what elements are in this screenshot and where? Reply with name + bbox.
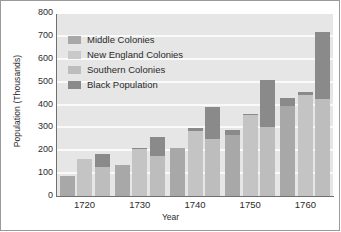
legend-label: Black Population	[87, 80, 158, 90]
y-tick-label: 200	[26, 145, 53, 154]
legend-swatch-icon	[68, 51, 81, 59]
bar-southern-colonies-1740	[205, 107, 220, 197]
bar-segment-black-population	[280, 98, 295, 106]
bar-southern-colonies-1720	[95, 154, 110, 197]
x-tick-label: 1740	[173, 199, 217, 210]
bar-new-england-colonies-1760	[298, 92, 313, 197]
x-tick-label: 1730	[118, 199, 162, 210]
y-tick-label: 700	[26, 31, 53, 40]
bar-segment-black-population	[132, 148, 147, 149]
bar-segment-black-population	[188, 128, 203, 130]
legend-swatch-icon	[68, 66, 81, 74]
bar-segment-base	[95, 167, 110, 197]
y-axis-tick-labels: 8007006005004003002001000	[26, 12, 53, 198]
bar-new-england-colonies-1750	[243, 114, 258, 197]
bar-segment-base	[132, 149, 147, 197]
bar-middle-colonies-1730	[115, 165, 130, 197]
x-axis-tick-labels: 17201730174017501760	[57, 199, 333, 213]
bar-segment-black-population	[95, 154, 110, 167]
bar-segment-base	[315, 99, 330, 197]
bar-segment-base	[243, 115, 258, 197]
bar-segment-base	[298, 95, 313, 197]
bar-segment-base	[280, 106, 295, 197]
y-tick-label: 800	[26, 8, 53, 17]
x-tick-label: 1720	[63, 199, 107, 210]
chart-legend: Middle ColoniesNew England ColoniesSouth…	[68, 33, 183, 93]
bar-segment-base	[77, 159, 92, 197]
bar-segment-black-population	[260, 80, 275, 128]
legend-label: Middle Colonies	[87, 35, 155, 45]
bar-middle-colonies-1740	[170, 148, 185, 197]
y-axis-line	[56, 14, 57, 197]
chart-figure: Population (Thousands) 80070060050040030…	[0, 0, 341, 232]
y-tick-label: 100	[26, 168, 53, 177]
bar-segment-base	[150, 156, 165, 197]
bar-segment-black-population	[150, 137, 165, 156]
bar-southern-colonies-1730	[150, 137, 165, 197]
bar-middle-colonies-1760	[280, 98, 295, 197]
y-tick-label: 600	[26, 54, 53, 63]
bar-segment-black-population	[315, 32, 330, 99]
legend-label: New England Colonies	[87, 50, 183, 60]
x-axis-line	[56, 196, 334, 197]
bar-segment-base	[170, 148, 185, 197]
x-axis-title: Year	[0, 212, 341, 222]
x-tick-label: 1750	[228, 199, 272, 210]
bar-segment-base	[115, 165, 130, 197]
bar-segment-base	[260, 127, 275, 197]
y-tick-label: 300	[26, 122, 53, 131]
y-tick-label: 400	[26, 100, 53, 109]
x-tick-label: 1760	[283, 199, 327, 210]
legend-item-southern-colonies: Southern Colonies	[68, 63, 183, 76]
bar-segment-base	[205, 139, 220, 197]
bar-segment-base	[60, 176, 75, 197]
legend-swatch-icon	[68, 81, 81, 89]
bar-new-england-colonies-1740	[188, 128, 203, 197]
bar-segment-base	[188, 131, 203, 197]
bar-segment-black-population	[225, 130, 240, 136]
bar-new-england-colonies-1730	[132, 148, 147, 197]
bar-middle-colonies-1720	[60, 176, 75, 197]
bar-segment-black-population	[298, 92, 313, 95]
y-tick-label: 0	[26, 191, 53, 200]
y-tick-label: 500	[26, 77, 53, 86]
bar-middle-colonies-1750	[225, 130, 240, 197]
legend-item-middle-colonies: Middle Colonies	[68, 33, 183, 46]
legend-label: Southern Colonies	[87, 65, 165, 75]
y-axis-title: Population (Thousands)	[12, 26, 22, 176]
legend-item-black-population: Black Population	[68, 78, 183, 91]
bar-segment-base	[225, 135, 240, 197]
bar-new-england-colonies-1720	[77, 159, 92, 197]
bar-southern-colonies-1760	[315, 32, 330, 197]
legend-item-new-england-colonies: New England Colonies	[68, 48, 183, 61]
legend-swatch-icon	[68, 36, 81, 44]
bar-segment-black-population	[243, 114, 258, 115]
bar-southern-colonies-1750	[260, 80, 275, 197]
bar-segment-black-population	[205, 107, 220, 139]
